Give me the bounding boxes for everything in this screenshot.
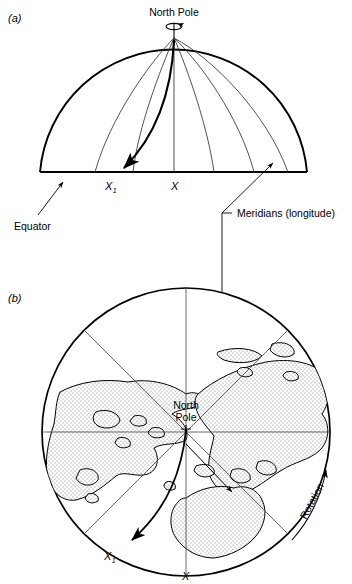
coriolis-figure: (a) North Pole X1 X Equator <box>0 0 352 584</box>
equator-label: Equator <box>14 220 51 232</box>
panel-b-label: (b) <box>8 292 22 304</box>
meridians-label: Meridians (longitude) <box>237 207 335 219</box>
panel-a-label: (a) <box>8 12 22 24</box>
label-x-b: X <box>181 570 190 582</box>
north-pole-label-b-line1: North <box>173 399 199 411</box>
north-pole-label-b-line2: Pole <box>175 411 196 423</box>
label-x-a: X <box>170 180 179 192</box>
north-pole-label-a: North Pole <box>149 6 199 18</box>
